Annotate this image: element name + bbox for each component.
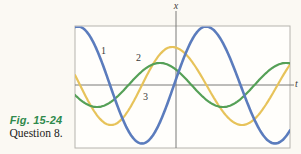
plot-frame-border <box>75 26 290 148</box>
question-reference-label: Question 8. <box>0 127 72 139</box>
textbook-figure: x t 1 2 3 Fig. 15-24 Question 8. <box>0 0 301 154</box>
figure-caption: Fig. 15-24 Question 8. <box>0 114 72 139</box>
curve-label-3: 3 <box>143 92 148 102</box>
curve-label-2: 2 <box>136 53 141 63</box>
x-axis-label-t: t <box>295 79 298 89</box>
curve-label-1: 1 <box>101 46 106 56</box>
figure-number-label: Fig. 15-24 <box>0 114 72 126</box>
y-axis-label-x: x <box>171 1 181 11</box>
